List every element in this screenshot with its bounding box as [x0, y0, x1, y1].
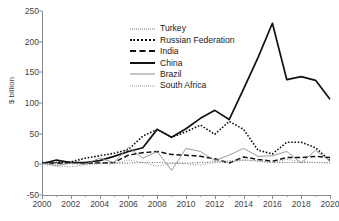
x-tick-mark-minor [172, 195, 173, 197]
x-tick-mark-minor [143, 195, 144, 197]
legend-label: India [160, 47, 179, 56]
legend-label: Turkey [160, 24, 186, 33]
x-tick-label: 2016 [263, 199, 282, 209]
x-tick-mark-minor [287, 195, 288, 197]
x-tick-label: 2012 [205, 199, 224, 209]
legend-item-south-africa[interactable]: South Africa [130, 80, 235, 91]
legend-line-swatch [130, 35, 155, 45]
legend-line-swatch [130, 81, 155, 91]
legend-label: South Africa [160, 81, 206, 90]
legend-item-china[interactable]: China [130, 57, 235, 68]
x-tick-label: 2010 [177, 199, 196, 209]
x-tick-mark-minor [258, 195, 259, 197]
legend-line-swatch [130, 46, 155, 56]
series-line-india [42, 151, 330, 163]
legend-label: Russian Federation [160, 36, 235, 45]
x-tick-mark-minor [56, 195, 57, 197]
x-tick-label: 2002 [61, 199, 80, 209]
legend-item-brazil[interactable]: Brazil [130, 69, 235, 80]
y-tick-label: 200 [25, 37, 39, 47]
x-tick-label: 2018 [292, 199, 311, 209]
x-tick-mark-minor [114, 195, 115, 197]
x-tick-label: 2020 [321, 199, 339, 209]
chart-legend: TurkeyRussian FederationIndiaChinaBrazil… [130, 23, 235, 91]
x-tick-label: 2006 [119, 199, 138, 209]
legend-label: Brazil [160, 70, 182, 79]
x-tick-mark-minor [316, 195, 317, 197]
legend-line-swatch [130, 58, 155, 68]
y-axis-title: $ billion [7, 61, 16, 121]
x-tick-mark-minor [85, 195, 86, 197]
legend-line-swatch [130, 24, 155, 34]
x-tick-label: 2014 [234, 199, 253, 209]
y-tick-label: 250 [25, 6, 39, 16]
plot-area: 250200150100500-50 200020022004200620082… [42, 11, 330, 195]
legend-line-swatch [130, 69, 155, 79]
legend-item-turkey[interactable]: Turkey [130, 23, 235, 34]
x-tick-label: 2000 [33, 199, 52, 209]
y-tick-label: 100 [25, 98, 39, 108]
x-tick-mark-minor [229, 195, 230, 197]
series-line-russian-federation [42, 121, 330, 162]
x-tick-label: 2008 [148, 199, 167, 209]
legend-item-india[interactable]: India [130, 46, 235, 57]
x-tick-label: 2004 [90, 199, 109, 209]
legend-item-russian-federation[interactable]: Russian Federation [130, 34, 235, 45]
x-tick-mark-minor [200, 195, 201, 197]
y-tick-label: 150 [25, 67, 39, 77]
legend-label: China [160, 59, 182, 68]
